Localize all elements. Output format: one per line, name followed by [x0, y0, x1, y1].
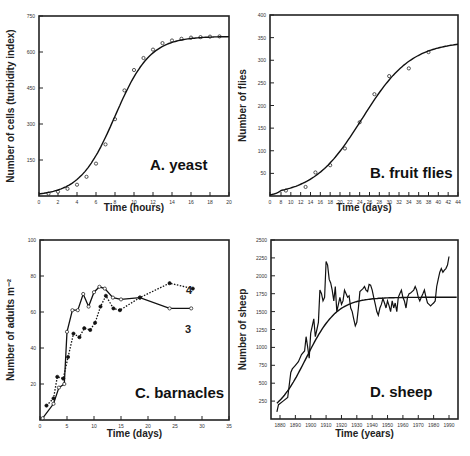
x-tick-label: 6	[95, 199, 98, 205]
y-tick-label: 450	[27, 85, 36, 91]
open-data-point	[71, 309, 74, 312]
y-tick-label: 100	[28, 237, 37, 243]
filled-data-point	[62, 377, 65, 380]
open-data-point	[111, 296, 114, 299]
filled-data-point	[45, 404, 48, 407]
y-tick-label: 100	[258, 148, 267, 154]
open-data-point	[103, 287, 106, 290]
x-tick-label: 32	[396, 199, 402, 205]
x-axis-label: Time (hours)	[104, 202, 164, 213]
panel-barnacles: 0510152025303520406080100Time (days)Numb…	[5, 237, 232, 439]
filled-data-point	[138, 296, 141, 299]
y-tick-label: 1000	[256, 344, 267, 350]
x-tick-label: 18	[207, 199, 213, 205]
x-tick-label: 34	[406, 199, 412, 205]
x-tick-label: 1960	[397, 422, 408, 428]
x-tick-label: 1980	[428, 422, 439, 428]
filled-data-point	[168, 282, 171, 285]
open-data-point	[65, 330, 68, 333]
open-data-point	[407, 67, 410, 70]
x-tick-label: 2	[57, 199, 60, 205]
y-tick-label: 500	[259, 380, 268, 386]
open-data-point	[75, 183, 78, 186]
x-tick-label: 25	[172, 423, 178, 429]
y-tick-label: 150	[258, 125, 267, 131]
x-tick-label: 0	[39, 423, 42, 429]
x-tick-label: 1900	[305, 422, 316, 428]
x-tick-label: 30	[199, 423, 205, 429]
x-tick-label: 42	[445, 199, 451, 205]
y-tick-label: 250	[258, 80, 267, 86]
x-tick-label: 10	[91, 423, 97, 429]
x-tick-label: 0	[38, 199, 41, 205]
open-data-point	[190, 307, 193, 310]
y-tick-label: 80	[30, 273, 36, 279]
x-tick-label: 16	[188, 199, 194, 205]
x-tick-label: 14	[308, 199, 314, 205]
x-tick-label: 38	[426, 199, 432, 205]
filled-data-point	[93, 321, 96, 324]
x-tick-label: 0	[269, 199, 272, 205]
panel-yeast: 02468101214161820150300450600750Time (ho…	[5, 13, 232, 213]
open-data-point	[76, 309, 79, 312]
y-tick-label: 300	[27, 121, 36, 127]
filled-data-point	[118, 309, 121, 312]
x-tick-label: 16	[318, 199, 324, 205]
x-tick-label: 12	[298, 199, 304, 205]
y-axis-label: Number of sheep	[237, 289, 248, 371]
y-tick-label: 1250	[256, 327, 267, 333]
x-axis-label: Time (days)	[107, 428, 162, 439]
y-axis-label: Number of adults m⁻²	[5, 278, 16, 381]
open-data-point	[52, 402, 55, 405]
filled-data-point	[104, 294, 107, 297]
y-tick-label: 200	[258, 103, 267, 109]
x-tick-label: 5	[66, 423, 69, 429]
y-tick-label: 60	[30, 309, 36, 315]
open-data-point	[66, 187, 69, 190]
open-data-point	[98, 285, 101, 288]
y-tick-label: 600	[27, 49, 36, 55]
y-tick-label: 50	[260, 170, 266, 176]
open-data-point	[87, 305, 90, 308]
filled-data-point	[89, 328, 92, 331]
x-axis-label: Time (days)	[336, 202, 391, 213]
y-tick-label: 250	[259, 398, 268, 404]
panel-sheep: 1880189019001910192019301940195019601970…	[237, 237, 458, 439]
panel-title: B. fruit flies	[370, 164, 453, 181]
filled-data-point	[72, 332, 75, 335]
open-data-point	[388, 74, 391, 77]
x-tick-label: 1970	[413, 422, 424, 428]
open-data-point	[57, 386, 60, 389]
filled-data-point	[99, 305, 102, 308]
x-tick-label: 35	[226, 423, 232, 429]
open-data-point	[132, 68, 135, 71]
y-tick-label: 40	[30, 345, 36, 351]
y-tick-label: 1750	[256, 291, 267, 297]
x-tick-label: 1890	[290, 422, 301, 428]
x-tick-label: 8	[280, 199, 283, 205]
x-tick-label: 40	[436, 199, 442, 205]
open-data-point	[161, 42, 164, 45]
y-tick-label: 400	[258, 12, 267, 18]
filled-data-point	[66, 355, 69, 358]
open-data-point	[94, 162, 97, 165]
x-tick-label: 36	[416, 199, 422, 205]
open-data-point	[314, 171, 317, 174]
x-tick-label: 1880	[274, 422, 285, 428]
x-tick-label: 4	[76, 199, 79, 205]
y-tick-label: 1500	[256, 309, 267, 315]
filled-data-point	[112, 307, 115, 310]
y-tick-label: 150	[27, 157, 36, 163]
x-tick-label: 10	[288, 199, 294, 205]
x-tick-label: 20	[226, 199, 232, 205]
y-tick-label: 750	[27, 13, 36, 19]
y-tick-label: 300	[258, 57, 267, 63]
y-tick-label: 20	[30, 381, 36, 387]
open-data-point	[142, 56, 145, 59]
x-tick-label: 44	[455, 199, 461, 205]
open-data-point	[92, 291, 95, 294]
series-label-3: 3	[185, 323, 191, 335]
series-label-4: 4	[186, 284, 193, 296]
open-data-point	[373, 93, 376, 96]
open-data-point	[168, 307, 171, 310]
